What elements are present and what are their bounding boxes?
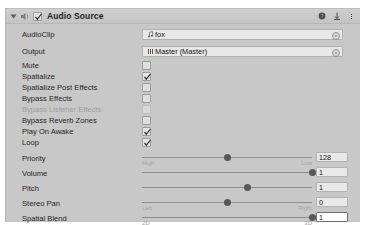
pitch-slider-handle[interactable] xyxy=(244,184,251,191)
output-label: Output xyxy=(6,47,142,56)
foldout-triangle-icon[interactable] xyxy=(9,9,18,23)
property-row-spatialize-post-effects: Spatialize Post Effects xyxy=(6,82,360,93)
output-picker-button[interactable] xyxy=(332,49,340,57)
header-actions: ? xyxy=(317,9,356,23)
component-header[interactable]: Audio Source ? xyxy=(6,9,360,24)
audio-clip-picker-button[interactable] xyxy=(332,32,340,40)
mute-label: Mute xyxy=(6,61,142,70)
spatial-blend-label: Spatial Blend xyxy=(6,212,142,223)
pitch-slider[interactable] xyxy=(142,182,312,197)
bypass-reverb-zones-checkbox[interactable] xyxy=(142,116,151,125)
property-row-stereo-pan: Stereo Pan Left Right 0 xyxy=(6,197,360,212)
stereo-pan-min-label: Left xyxy=(142,205,152,212)
music-note-icon xyxy=(146,31,154,39)
mute-checkbox[interactable] xyxy=(142,61,151,70)
property-row-play-on-awake: Play On Awake xyxy=(6,126,360,137)
spatial-blend-value-field[interactable]: 1 xyxy=(316,212,348,222)
output-value: Master (Master) xyxy=(155,47,207,56)
preset-icon[interactable] xyxy=(332,12,341,21)
priority-slider[interactable]: High Low xyxy=(142,152,312,167)
pitch-value-field[interactable]: 1 xyxy=(316,182,348,192)
audio-clip-object-field[interactable]: fox xyxy=(142,29,343,40)
stereo-pan-max-label: Right xyxy=(298,205,312,212)
spatialize-checkbox[interactable] xyxy=(142,72,151,81)
slider-rows: Priority High Low 128 Volume 1 Pitch xyxy=(6,152,360,224)
loop-label: Loop xyxy=(6,138,142,147)
property-row-loop: Loop xyxy=(6,137,360,148)
audio-clip-label: AudioClip xyxy=(6,30,142,39)
priority-value-field[interactable]: 128 xyxy=(316,152,348,162)
spatialize-post-effects-checkbox[interactable] xyxy=(142,83,151,92)
audio-clip-value: fox xyxy=(155,30,165,39)
property-row-bypass-effects: Bypass Effects xyxy=(6,93,360,104)
play-on-awake-label: Play On Awake xyxy=(6,127,142,136)
stereo-pan-value-field[interactable]: 0 xyxy=(316,197,348,207)
spatialize-post-effects-label: Spatialize Post Effects xyxy=(6,83,142,92)
property-row-spatial-blend: Spatial Blend 2D 3D 1 xyxy=(6,212,360,224)
pitch-slider-track[interactable] xyxy=(142,187,312,188)
property-row-mute: Mute xyxy=(6,60,360,71)
property-row-bypass-reverb-zones: Bypass Reverb Zones xyxy=(6,115,360,126)
bypass-effects-label: Bypass Effects xyxy=(6,94,142,103)
stereo-pan-slider-handle[interactable] xyxy=(224,199,231,206)
property-row-spatialize: Spatialize xyxy=(6,71,360,82)
toggle-rows: Mute Spatialize Spatialize Post Effects … xyxy=(6,60,360,148)
bypass-reverb-zones-label: Bypass Reverb Zones xyxy=(6,116,142,125)
stereo-pan-slider[interactable]: Left Right xyxy=(142,197,312,212)
volume-slider[interactable] xyxy=(142,167,312,182)
audio-mixer-icon xyxy=(146,48,154,56)
priority-label: Priority xyxy=(6,152,142,163)
property-row-audio-clip: AudioClip fox xyxy=(6,27,360,42)
audio-source-inspector-panel: Audio Source ? AudioClip xyxy=(5,8,360,222)
spatial-blend-slider-track[interactable] xyxy=(142,217,312,218)
volume-slider-track[interactable] xyxy=(142,172,312,173)
more-menu-icon[interactable] xyxy=(347,12,356,21)
pitch-label: Pitch xyxy=(6,182,142,193)
spatial-blend-max-label: 3D xyxy=(304,220,312,224)
property-row-priority: Priority High Low 128 xyxy=(6,152,360,167)
priority-min-label: High xyxy=(142,160,154,167)
loop-checkbox[interactable] xyxy=(142,138,151,147)
volume-value-field[interactable]: 1 xyxy=(316,167,348,177)
svg-text:?: ? xyxy=(320,13,323,19)
property-row-output: Output Master (Master) xyxy=(6,44,360,59)
component-title: Audio Source xyxy=(47,11,103,21)
play-on-awake-checkbox[interactable] xyxy=(142,127,151,136)
spatial-blend-min-label: 2D xyxy=(142,220,150,224)
properties-list: AudioClip fox Output Master (Master) xyxy=(6,27,360,224)
help-icon[interactable]: ? xyxy=(317,12,326,21)
bypass-listener-effects-checkbox xyxy=(142,105,151,114)
property-row-volume: Volume 1 xyxy=(6,167,360,182)
volume-slider-handle[interactable] xyxy=(309,169,316,176)
property-row-bypass-listener-effects: Bypass Listener Effects xyxy=(6,104,360,115)
spatial-blend-slider[interactable]: 2D 3D xyxy=(142,212,312,224)
priority-max-label: Low xyxy=(301,160,312,167)
audio-source-icon xyxy=(19,11,30,21)
spatialize-label: Spatialize xyxy=(6,72,142,81)
bypass-listener-effects-label: Bypass Listener Effects xyxy=(6,105,142,114)
volume-label: Volume xyxy=(6,167,142,178)
output-object-field[interactable]: Master (Master) xyxy=(142,46,343,57)
stereo-pan-label: Stereo Pan xyxy=(6,197,142,208)
component-enabled-checkbox[interactable] xyxy=(33,12,42,21)
property-row-pitch: Pitch 1 xyxy=(6,182,360,197)
bypass-effects-checkbox[interactable] xyxy=(142,94,151,103)
priority-slider-handle[interactable] xyxy=(224,154,231,161)
